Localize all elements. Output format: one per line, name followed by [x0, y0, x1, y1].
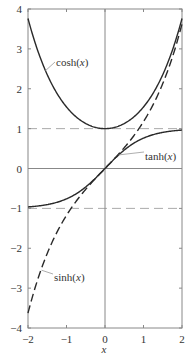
sinh-label: sinh(x) — [54, 271, 85, 284]
hyperbolic-functions-chart: −4−3−2−101234−2−1012 cosh(x) sinh(x) tan… — [0, 0, 194, 363]
cosh-label: cosh(x) — [56, 56, 89, 69]
y-tick-label: −3 — [10, 282, 22, 294]
x-tick-label: −2 — [22, 333, 34, 345]
tick-labels: −4−3−2−101234−2−1012 — [10, 3, 184, 345]
tanh-label: tanh(x) — [145, 150, 177, 163]
y-tick-label: 1 — [17, 123, 23, 135]
y-tick-label: −4 — [10, 322, 22, 334]
y-tick-label: 4 — [17, 3, 23, 15]
label-leader-line — [41, 270, 53, 274]
y-tick-label: 0 — [17, 163, 23, 175]
y-tick-label: −1 — [10, 202, 22, 214]
x-axis-title: x — [101, 343, 107, 355]
x-tick-label: 1 — [141, 333, 147, 345]
y-tick-label: 3 — [17, 43, 23, 55]
label-leader-line — [45, 62, 55, 71]
x-tick-label: 2 — [179, 333, 185, 345]
x-tick-label: −1 — [61, 333, 73, 345]
y-tick-label: −2 — [10, 242, 22, 254]
y-tick-label: 2 — [17, 83, 23, 95]
